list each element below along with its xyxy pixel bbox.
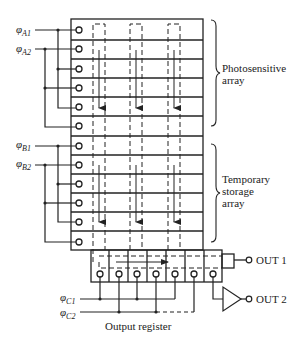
junction-dots-c xyxy=(98,297,157,313)
output-register xyxy=(91,250,246,282)
clock-wiring-a xyxy=(35,30,76,127)
clock-label-a2: φA2 xyxy=(16,42,31,57)
brace-storage xyxy=(211,144,220,242)
clock-label-c2: φC2 xyxy=(60,306,75,321)
label-photosensitive-1: Photosensitive xyxy=(222,62,286,74)
label-storage-1: Temporary xyxy=(222,173,271,185)
clock-wiring-b xyxy=(35,146,76,242)
imaging-array xyxy=(71,19,203,250)
junction-dots-b xyxy=(43,144,59,204)
label-out2: OUT 2 xyxy=(256,293,287,305)
register-contacts xyxy=(97,271,216,277)
out1-terminal xyxy=(246,257,252,263)
brace-photosensitive xyxy=(211,20,220,126)
ccd-diagram: φA1 φA2 φB1 φB2 Photosensitive array Tem… xyxy=(0,0,299,340)
junction-dots-a xyxy=(43,28,59,89)
label-photosensitive-2: array xyxy=(222,74,245,86)
clock-label-b2: φB2 xyxy=(16,157,31,172)
label-out1: OUT 1 xyxy=(256,254,287,266)
clock-label-b1: φB1 xyxy=(16,138,31,153)
label-output-register: Output register xyxy=(105,320,172,332)
out2-terminal xyxy=(246,296,252,302)
label-storage-3: array xyxy=(222,197,245,209)
clock-label-c1: φC1 xyxy=(60,291,75,306)
label-storage-2: storage xyxy=(222,185,254,197)
clock-label-a1: φA1 xyxy=(16,23,31,38)
